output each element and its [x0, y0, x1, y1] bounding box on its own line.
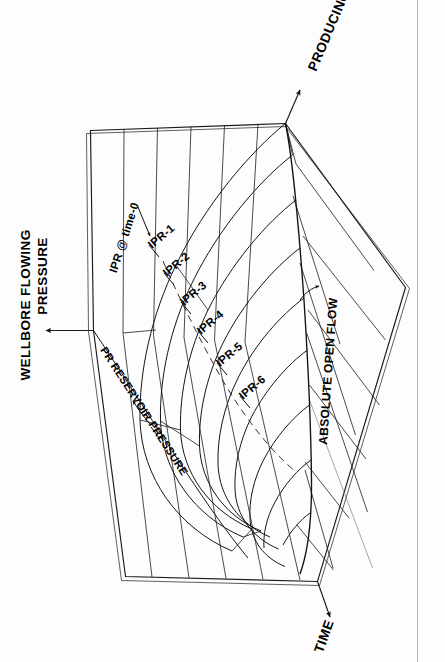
time-text: TIME [311, 618, 337, 655]
ipr-time-surface-diagram: WELLBORE FLOWING PRESSURE PRODUCING RATE… [0, 0, 445, 662]
producing-rate-label: PRODUCING RATE [305, 0, 369, 73]
ipr-curve-8-partial [283, 513, 310, 545]
ipr-curve-5 [235, 350, 308, 549]
ipr-label-2: IPR-2 [161, 250, 192, 279]
left-face-grid [123, 124, 258, 342]
producing-rate-axis [286, 90, 301, 124]
ipr-curve-4 [218, 298, 304, 537]
ipr-label-4: IPR-4 [195, 308, 226, 337]
ipr-label-1: IPR-1 [146, 222, 177, 251]
ipr-curve-6 [250, 405, 310, 567]
time-label: TIME [311, 618, 337, 655]
producing-rate-text: PRODUCING RATE [305, 0, 369, 73]
figure-root: WELLBORE FLOWING PRESSURE PRODUCING RATE… [0, 0, 445, 662]
ipr-curve-1 [160, 155, 292, 537]
time-axis [318, 582, 331, 618]
ipr-curve-2 [180, 200, 296, 529]
wellbore-flowing-pressure-line1: WELLBORE FLOWING [18, 229, 33, 380]
frame-inner-contour [91, 124, 406, 582]
wellbore-flowing-pressure-label: WELLBORE FLOWING PRESSURE [18, 229, 50, 380]
ipr-curve-family [140, 124, 311, 567]
absolute-open-flow-curve [286, 124, 312, 575]
ipr-curve-7-partial [264, 460, 311, 548]
wellbore-flowing-pressure-line2: PRESSURE [35, 237, 50, 314]
ipr-label-3: IPR-3 [178, 279, 209, 308]
